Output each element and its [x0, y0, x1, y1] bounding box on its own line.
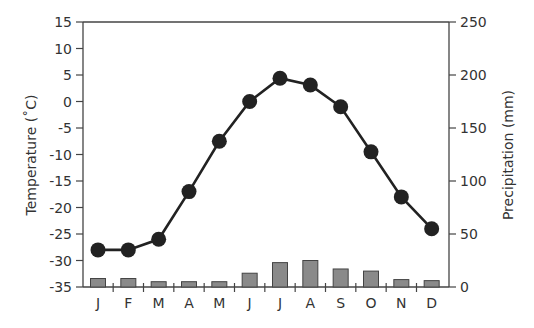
right-tick-label: 50	[460, 226, 478, 242]
month-label: M	[213, 295, 225, 311]
temperature-marker	[303, 78, 318, 93]
left-tick-label: 5	[63, 67, 72, 83]
month-label: D	[426, 295, 437, 311]
precipitation-bar	[212, 282, 227, 287]
temperature-marker	[394, 189, 409, 204]
left-axis-ticks: 151050-5-10-15-20-25-30-35	[49, 14, 83, 295]
temperature-marker	[121, 242, 136, 257]
month-label: M	[153, 295, 165, 311]
temperature-marker	[273, 71, 288, 86]
right-axis-title: Precipitation (mm)	[500, 90, 516, 220]
temperature-marker	[424, 221, 439, 236]
temperature-line	[91, 71, 440, 258]
left-tick-label: 10	[54, 41, 72, 57]
precipitation-bar	[182, 282, 197, 287]
left-tick-label: 0	[63, 94, 72, 110]
left-tick-label: -15	[49, 173, 72, 189]
precipitation-bar	[424, 281, 439, 287]
left-tick-label: -10	[49, 147, 72, 163]
left-tick-label: -20	[49, 200, 72, 216]
precipitation-bar	[242, 273, 257, 287]
month-label: J	[247, 295, 252, 311]
right-axis-ticks: 250200150100500	[449, 14, 487, 295]
precipitation-bar	[364, 271, 379, 287]
precipitation-bar	[303, 261, 318, 288]
right-tick-label: 250	[460, 14, 487, 30]
left-tick-label: -30	[49, 253, 72, 269]
temperature-polyline	[98, 78, 432, 250]
right-tick-label: 100	[460, 173, 487, 189]
right-tick-label: 200	[460, 67, 487, 83]
temperature-marker	[333, 99, 348, 114]
precipitation-bar	[121, 279, 136, 287]
month-label: J	[95, 295, 100, 311]
month-label: S	[336, 295, 345, 311]
month-label: A	[306, 295, 316, 311]
climate-chart: 151050-5-10-15-20-25-30-35 2502001501005…	[0, 0, 534, 328]
left-tick-label: -5	[58, 120, 72, 136]
month-label: A	[184, 295, 194, 311]
temperature-marker	[151, 232, 166, 247]
left-axis-title: Temperature (˚C)	[23, 95, 39, 217]
right-tick-label: 150	[460, 120, 487, 136]
temperature-marker	[182, 184, 197, 199]
month-label: J	[277, 295, 282, 311]
month-label: O	[365, 295, 376, 311]
precipitation-bar	[394, 280, 409, 287]
left-tick-label: -35	[49, 279, 72, 295]
temperature-marker	[91, 242, 106, 257]
precipitation-bar	[333, 269, 348, 287]
precipitation-bar	[151, 282, 166, 287]
right-tick-label: 0	[460, 279, 469, 295]
temperature-marker	[364, 144, 379, 159]
month-label: N	[396, 295, 406, 311]
temperature-marker	[242, 94, 257, 109]
left-tick-label: -25	[49, 226, 72, 242]
temperature-marker	[212, 134, 227, 149]
left-tick-label: 15	[54, 14, 72, 30]
precipitation-bar	[273, 263, 288, 287]
month-label: F	[124, 295, 132, 311]
precipitation-bar	[91, 279, 106, 287]
